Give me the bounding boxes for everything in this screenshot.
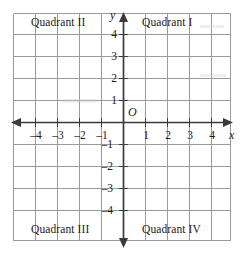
y-axis-label: y [110, 9, 115, 21]
x-tick-label-neg3: –3 [47, 130, 69, 142]
x-tick-label-3: 3 [179, 130, 201, 142]
y-tick-label-4: 4 [99, 29, 117, 41]
y-tick-label-3: 3 [99, 51, 117, 63]
x-axis-arrow-right [223, 118, 233, 127]
vertical-gridlines [14, 14, 231, 241]
y-tick-label-neg3: –3 [95, 183, 113, 195]
quadrant-1-label: Quadrant I [142, 17, 193, 29]
x-tick-label-2: 2 [157, 130, 179, 142]
quadrant-4-label: Quadrant IV [142, 224, 201, 236]
quadrant-3-label: Quadrant III [31, 224, 89, 236]
x-axis-label: x [229, 129, 234, 141]
horizontal-gridlines [14, 14, 231, 241]
y-tick-label-neg4: –4 [95, 205, 113, 217]
x-tick-label-4: 4 [201, 130, 223, 142]
x-tick-label-1: 1 [135, 130, 157, 142]
y-axis-arrow-down [119, 238, 128, 248]
y-tick-label-neg2: –2 [95, 161, 113, 173]
x-tick-label-neg4: –4 [25, 130, 47, 142]
x-tick-label-neg2: –2 [69, 130, 91, 142]
y-tick-label-neg1: –1 [95, 139, 113, 151]
grid-and-axes [0, 0, 243, 254]
coordinate-plane-figure: Quadrant II Quadrant I Quadrant III Quad… [0, 0, 243, 254]
origin-label: O [128, 106, 137, 118]
x-axis-arrow-left [11, 118, 21, 127]
y-tick-label-1: 1 [99, 95, 117, 107]
quadrant-2-label: Quadrant II [31, 17, 85, 29]
y-tick-label-2: 2 [99, 73, 117, 85]
